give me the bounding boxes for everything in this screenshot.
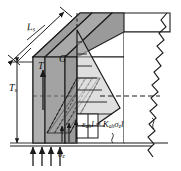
label-sigma-sub: z — [62, 153, 64, 159]
label-T-base: T — [38, 60, 44, 71]
label-shear-modulus-G: G — [59, 54, 66, 64]
label-length-Ls: Ls — [27, 22, 35, 33]
block-right-body — [124, 32, 170, 143]
label-vertical-stress-sigma-z: σz — [58, 150, 65, 160]
label-G-base: G — [59, 53, 66, 64]
label-Ts-sub: s — [15, 86, 17, 93]
eq-equals: = — [94, 119, 103, 129]
label-Ls-sub: s — [32, 25, 35, 32]
figure-container: Ls Ts T G σz εahl=Kahσzl — [0, 0, 181, 171]
label-thickness-Ts: Ts — [9, 83, 17, 94]
vertical-stress-arrows — [33, 147, 60, 166]
eq-rhs-tail: l — [121, 119, 124, 129]
label-tension-T: T — [38, 61, 44, 71]
dimension-line-Ts — [10, 48, 33, 143]
equation-lateral-strain: εahl=Kahσzl — [82, 120, 123, 130]
